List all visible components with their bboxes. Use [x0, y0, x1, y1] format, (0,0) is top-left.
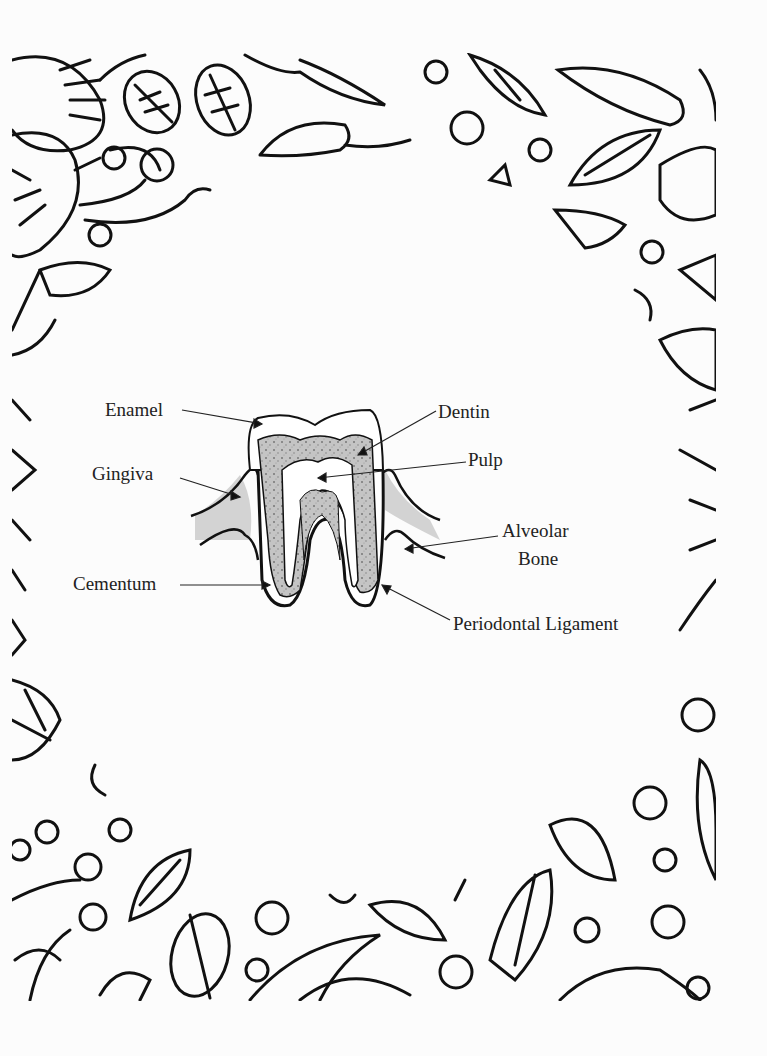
label-periodontal-ligament: Periodontal Ligament [453, 614, 618, 633]
gingiva-left-fill [195, 475, 251, 540]
label-gingiva: Gingiva [92, 464, 153, 483]
leaf-top-4 [470, 55, 545, 115]
floral-border [0, 0, 767, 1056]
left-vines [12, 400, 35, 590]
circle-top [425, 61, 447, 83]
coloring-page: Enamel Dentin Pulp Gingiva Alveolar Bone… [0, 0, 767, 1056]
label-bone: Bone [518, 549, 558, 568]
tooth-diagram [180, 410, 498, 620]
gingiva-right-fill [385, 470, 440, 540]
label-cementum: Cementum [73, 574, 156, 593]
flower-top-left [12, 55, 160, 257]
label-alveolar: Alveolar [502, 521, 568, 540]
label-pulp: Pulp [468, 450, 503, 469]
label-enamel: Enamel [105, 400, 163, 419]
label-dentin: Dentin [438, 402, 490, 421]
leaf-top-3 [245, 55, 385, 105]
